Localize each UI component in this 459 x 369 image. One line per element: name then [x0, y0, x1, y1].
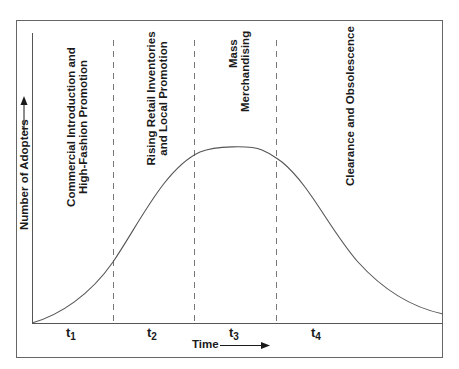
t2-subscript: 2 [151, 331, 157, 342]
stage-label-t1: Commercial Introduction and High-Fashion… [65, 32, 89, 222]
stage-label-t3: Mass Merchandising [227, 32, 251, 112]
y-axis-label-text: Number of Adopters [18, 134, 30, 230]
stage-label-t4: Clearance and Obsolescence [344, 30, 356, 186]
up-arrow-icon [21, 96, 28, 105]
time-label-t3: t3 [229, 325, 239, 342]
stage-label-t2-line1: Rising Retail Inventories [145, 31, 157, 166]
stage-label-t3-line1: Mass [227, 32, 239, 112]
y-axis-label: Number of Adopters [18, 134, 30, 230]
stage-label-t1-line2: High-Fashion Promotion [77, 32, 89, 222]
stage-label-t3-line2: Merchandising [239, 32, 251, 112]
t1-subscript: 1 [70, 331, 76, 342]
stage-label-t2-line2: and Local Promotion [157, 31, 169, 166]
stage-label-t1-line1: Commercial Introduction and [65, 32, 77, 222]
stage-label-t4-line1: Clearance and Obsolescence [344, 30, 356, 186]
t3-subscript: 3 [233, 331, 239, 342]
time-label-t1: t1 [66, 325, 76, 342]
x-axis-label: Time [192, 338, 219, 350]
adoption-curve-diagram: Number of Adopters Commercial Introducti… [0, 0, 459, 369]
t4-subscript: 4 [315, 331, 321, 342]
adoption-curve [32, 147, 443, 323]
time-label-t2: t2 [147, 325, 157, 342]
stage-label-t2: Rising Retail Inventories and Local Prom… [145, 31, 169, 166]
right-arrow-icon [261, 342, 270, 349]
time-label-t4: t4 [311, 325, 321, 342]
